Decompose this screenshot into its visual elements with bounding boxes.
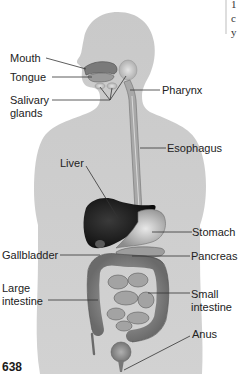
rectum-organ (111, 342, 131, 362)
tongue-organ (88, 73, 114, 82)
label-large-line2: intestine (2, 295, 43, 307)
gallbladder-organ (95, 240, 105, 248)
label-salivary-line1: Salivary (10, 94, 50, 106)
side-text-fragment: 1 (231, 0, 237, 10)
page-number: 638 (2, 360, 22, 374)
label-small-line1: Small (191, 288, 219, 300)
label-tongue: Tongue (10, 71, 46, 83)
label-anus: Anus (192, 328, 218, 340)
digestive-system-diagram: 1 c y (0, 0, 240, 374)
label-pancreas: Pancreas (191, 250, 238, 262)
label-esophagus: Esophagus (167, 142, 223, 154)
label-large-line1: Large (2, 282, 30, 294)
label-small-line2: intestine (191, 301, 232, 313)
label-pharynx: Pharynx (162, 84, 203, 96)
side-text-fragment: c (231, 12, 236, 24)
side-text-fragment: y (231, 26, 237, 38)
sublingual-gland (95, 83, 105, 89)
label-gallbladder: Gallbladder (2, 249, 59, 261)
label-mouth: Mouth (10, 52, 41, 64)
label-salivary-line2: glands (10, 107, 43, 119)
label-stomach: Stomach (192, 226, 235, 238)
label-liver: Liver (60, 157, 84, 169)
parotid-gland (119, 60, 137, 80)
